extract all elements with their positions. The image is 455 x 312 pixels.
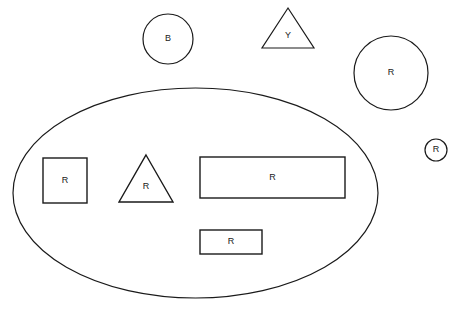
rectangle-r-large[interactable]: R — [200, 157, 345, 198]
circle-r-small[interactable]: R — [425, 139, 447, 161]
diagram-canvas: RRRRBYRR — [0, 0, 455, 312]
triangle-y-outline — [262, 8, 314, 48]
triangle-y[interactable]: Y — [262, 8, 314, 48]
triangle-y-label: Y — [285, 30, 291, 40]
rectangle-r-small[interactable]: R — [200, 230, 262, 254]
circle-b[interactable]: B — [143, 14, 193, 64]
square-r[interactable]: R — [43, 158, 87, 203]
circle-b-label: B — [165, 33, 171, 43]
square-r-label: R — [62, 175, 69, 185]
rectangle-r-small-label: R — [228, 236, 235, 246]
triangle-r-label: R — [143, 181, 150, 191]
circle-r-large[interactable]: R — [354, 36, 428, 110]
circle-r-large-label: R — [388, 67, 395, 77]
circle-r-small-label: R — [433, 144, 440, 154]
shapes-diagram: RRRRBYRR — [0, 0, 455, 312]
rectangle-r-large-label: R — [269, 172, 276, 182]
